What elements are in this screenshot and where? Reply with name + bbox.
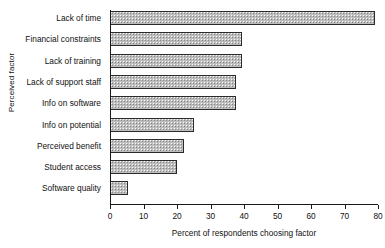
bar bbox=[110, 75, 236, 89]
x-axis-tick bbox=[311, 205, 312, 209]
bar bbox=[110, 96, 236, 110]
category-label: Financial constraints bbox=[0, 35, 101, 44]
x-axis-tick-label: 60 bbox=[298, 211, 324, 221]
x-axis-tick bbox=[211, 205, 212, 209]
x-axis-tick-label: 50 bbox=[265, 211, 291, 221]
bar bbox=[110, 118, 194, 132]
x-axis-tick bbox=[278, 205, 279, 209]
bar-chart: Perceived factor Lack of timeFinancial c… bbox=[0, 0, 385, 248]
bar bbox=[110, 11, 375, 25]
category-axis-labels: Lack of timeFinancial constraintsLack of… bbox=[0, 10, 105, 204]
bar bbox=[110, 139, 184, 153]
x-axis-tick-label: 30 bbox=[198, 211, 224, 221]
category-label: Lack of support staff bbox=[0, 78, 101, 87]
x-axis-tick-label: 40 bbox=[231, 211, 257, 221]
x-axis-title: Percent of respondents choosing factor bbox=[110, 228, 378, 238]
x-axis-tick bbox=[177, 205, 178, 209]
x-axis-tick bbox=[378, 205, 379, 209]
x-axis-tick bbox=[244, 205, 245, 209]
y-axis-line bbox=[110, 10, 111, 205]
category-label: Software quality bbox=[0, 184, 101, 193]
x-axis-tick-label: 20 bbox=[164, 211, 190, 221]
x-axis-tick-label: 80 bbox=[365, 211, 385, 221]
x-axis-tick bbox=[110, 205, 111, 209]
x-axis-tick-label: 0 bbox=[97, 211, 123, 221]
bar bbox=[110, 54, 242, 68]
bar bbox=[110, 32, 242, 46]
category-label: Student access bbox=[0, 163, 101, 172]
category-label: Perceived benefit bbox=[0, 142, 101, 151]
bar bbox=[110, 160, 177, 174]
bar bbox=[110, 181, 128, 195]
x-axis-tick-label: 10 bbox=[131, 211, 157, 221]
category-label: Info on potential bbox=[0, 121, 101, 130]
category-label: Lack of time bbox=[0, 14, 101, 23]
category-label: Lack of training bbox=[0, 57, 101, 66]
plot-area bbox=[110, 10, 378, 204]
x-axis-tick-label: 70 bbox=[332, 211, 358, 221]
category-label: Info on software bbox=[0, 99, 101, 108]
x-axis-tick bbox=[144, 205, 145, 209]
x-axis-tick bbox=[345, 205, 346, 209]
